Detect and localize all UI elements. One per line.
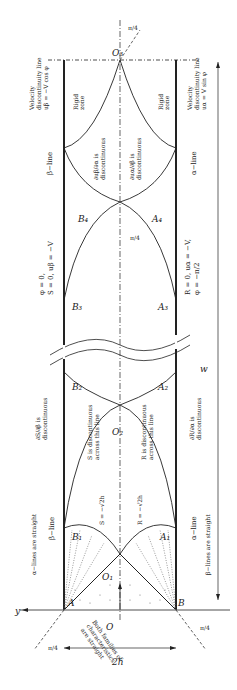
label-B3: B₃	[71, 302, 83, 312]
right-state: R = 0, uα = −V,	[184, 239, 192, 295]
svg-text:S = 0, uβ = −V: S = 0, uβ = −V	[47, 240, 55, 295]
S-disc: S is discontinuous	[86, 405, 93, 460]
svg-text:across this line: across this line	[147, 414, 154, 460]
dR-disc: ∂R/∂α is	[188, 416, 195, 440]
label-B4: B₄	[77, 214, 89, 224]
alpha-line-bottom: α−line	[190, 516, 198, 540]
label-B2: B₂	[71, 382, 83, 392]
svg-text:discontinuous: discontinuous	[41, 398, 48, 440]
slip-line-diagram: O₃ O₁ O A B y B₄ A₄ B₃ A₃ B₂ A₂ B₁ A₁ O₂…	[0, 0, 237, 690]
beta-line-bottom: β−line	[48, 517, 56, 540]
label-pi4-right: π/4	[200, 624, 210, 631]
label-pi4-mid: π/4	[130, 234, 140, 241]
label-A1: A₁	[159, 532, 170, 542]
svg-text:φ = −π/2: φ = −π/2	[193, 263, 201, 296]
R-disc: R is discontinuous	[140, 404, 147, 460]
label-B1: B₁	[71, 532, 82, 542]
svg-text:discontinuous: discontinuous	[195, 398, 202, 440]
svg-text:zone: zone	[163, 95, 170, 110]
y-axis-arrow-icon	[22, 608, 28, 612]
label-O3: O₃	[112, 48, 123, 58]
label-y: y	[14, 606, 21, 616]
svg-text:zone: zone	[78, 95, 85, 110]
label-pi4-left: π/4	[48, 644, 58, 651]
label-O: O	[106, 622, 114, 632]
svg-text:discontinuous: discontinuous	[135, 138, 142, 180]
label-pi4-top: π/4	[128, 24, 138, 31]
S-value: S = −√2h	[98, 495, 105, 525]
label-O1: O₁	[102, 572, 113, 582]
svg-text:discontinuous: discontinuous	[99, 138, 106, 180]
R-value: R = −√2h	[136, 495, 143, 525]
label-w: w	[200, 364, 208, 374]
left-state: φ = 0,	[38, 273, 46, 295]
alpha-straight: α−lines are straight	[30, 513, 38, 575]
beta-line-top: β−line	[46, 152, 54, 175]
svg-text:uβ = −V cos φ: uβ = −V cos φ	[42, 66, 50, 110]
x-axis-arrow-icon	[118, 583, 122, 589]
svg-text:across this line: across this line	[93, 414, 100, 460]
label-O2: O₂	[112, 427, 123, 437]
label-A2: A₂	[157, 382, 168, 392]
label-A: A	[67, 598, 75, 608]
label-A3: A₃	[157, 302, 168, 312]
beta-straight: β−lines are straight	[204, 514, 212, 575]
alpha-line-top: α−line	[190, 151, 198, 175]
svg-text:uα = V sin φ: uα = V sin φ	[200, 72, 208, 110]
label-A4: A₄	[151, 214, 162, 224]
label-B: B	[177, 598, 185, 608]
